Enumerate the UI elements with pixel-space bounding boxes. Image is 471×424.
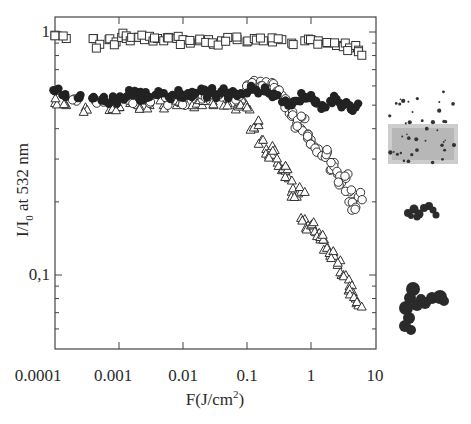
x-tick-label-1: 1 xyxy=(307,366,316,386)
large-aggregate-micrograph xyxy=(399,282,449,335)
micrograph-insets xyxy=(388,90,458,335)
data-points xyxy=(49,29,366,310)
x-tick-label-0.001: 0.001 xyxy=(94,366,132,386)
x-axis-label: F(J/cm2) xyxy=(186,388,244,410)
dispersed-particles-micrograph xyxy=(388,124,458,164)
x-axis-label-end: ) xyxy=(239,390,245,409)
chart-canvas xyxy=(0,0,471,424)
x-tick-label-0.1: 0.1 xyxy=(236,366,257,386)
y-tick-label-1: 1 xyxy=(42,22,51,42)
small-aggregate-micrograph xyxy=(404,202,440,221)
y-axis-label-text: I/I xyxy=(13,221,32,237)
y-axis-label-sub: 0 xyxy=(23,215,35,221)
y-axis-label: I/I0 at 532 nm xyxy=(13,143,34,237)
y-tick-label-0-1: 0,1 xyxy=(29,265,50,285)
x-axis-label-text: F(J/cm xyxy=(186,390,233,409)
plot-frame xyxy=(55,17,376,349)
y-axis-label-rest: at 532 nm xyxy=(13,143,32,215)
x-tick-label-10: 10 xyxy=(367,366,384,386)
x-tick-label-0.01: 0.01 xyxy=(168,366,198,386)
x-tick-label-0.0001: 0.0001 xyxy=(15,366,62,386)
